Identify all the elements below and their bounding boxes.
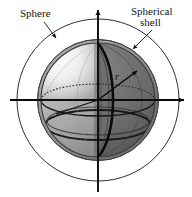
sphere-shell-diagram: Sphere Spherical shell r xyxy=(0,0,192,197)
radius-label: r xyxy=(115,71,119,82)
spherical-shell-label-line2: shell xyxy=(140,16,161,28)
sphere-label: Sphere xyxy=(20,7,51,19)
sphere-cutaway-face-fill xyxy=(41,43,98,100)
sphere-leader-line xyxy=(44,22,56,38)
figure-container: Sphere Spherical shell r xyxy=(0,0,192,197)
